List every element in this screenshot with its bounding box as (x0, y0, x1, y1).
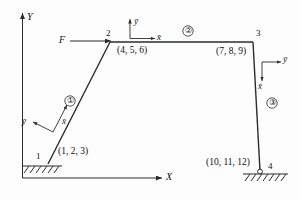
element-3-local-x-label: x̄ (258, 82, 262, 91)
node-4-marker (258, 169, 263, 174)
node-2-label: 2 (106, 29, 111, 38)
node-2-dof: (4, 5, 6) (117, 46, 147, 56)
frame-diagram: Y X F 2 (4, 5, 6) 3 (7, 8, 9) 1 (1, 2, 3… (0, 0, 300, 199)
global-x-axis-label: X (166, 172, 172, 182)
local-axes-element-3 (262, 62, 281, 81)
element-2-local-x-label: x̄ (157, 33, 161, 42)
node-4-label: 4 (268, 162, 273, 171)
node-3-dof: (7, 8, 9) (216, 47, 246, 57)
node-3-label: 3 (256, 29, 261, 38)
element-2-local-y-label: ȳ (134, 17, 138, 26)
element-1-label: ① (67, 97, 74, 105)
element-3-member (253, 42, 260, 171)
support-4-hatching (245, 174, 286, 181)
node-1-dof: (1, 2, 3) (58, 147, 88, 157)
force-label: F (59, 35, 65, 45)
element-3-local-y-label: ȳ (283, 55, 287, 64)
element-2-label: ② (185, 27, 192, 35)
element-1-local-x-label: x̄ (62, 117, 66, 126)
diagram-canvas (0, 0, 300, 199)
element-1-local-y-label: ȳ (22, 117, 26, 126)
element-3-label: ③ (269, 99, 276, 107)
support-1-hatching (24, 166, 59, 173)
node-1-label: 1 (36, 152, 41, 161)
node-4-dof: (10, 11, 12) (206, 158, 250, 168)
global-y-axis-label: Y (27, 12, 33, 22)
